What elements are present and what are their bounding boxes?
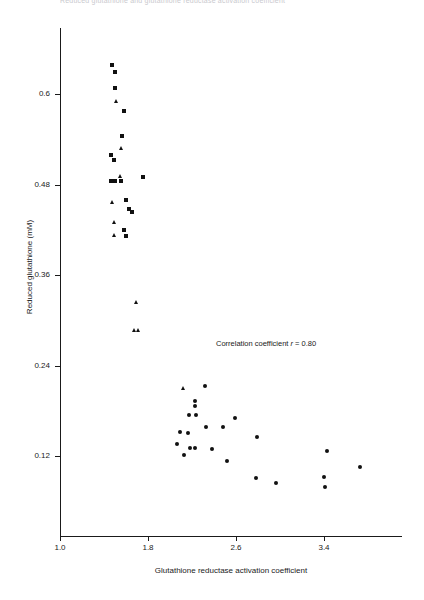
x-tick-mark (324, 536, 325, 541)
data-point-triangle (119, 146, 123, 150)
data-point-square (110, 63, 114, 67)
data-point-circle (186, 431, 190, 435)
data-point-circle (194, 413, 198, 417)
data-point-circle (323, 485, 327, 489)
data-point-circle (358, 465, 362, 469)
x-tick-label: 1.8 (128, 543, 168, 552)
x-tick-mark (148, 536, 149, 541)
data-point-square (122, 228, 126, 232)
y-tick-mark (55, 366, 60, 367)
data-point-triangle (112, 220, 116, 224)
data-point-circle (255, 435, 259, 439)
data-point-triangle (114, 99, 118, 103)
data-point-square (119, 179, 123, 183)
data-point-circle (193, 399, 197, 403)
x-tick-label: 3.4 (304, 543, 344, 552)
data-point-circle (225, 459, 229, 463)
data-point-square (113, 86, 117, 90)
x-axis-line (60, 536, 402, 537)
annotation-suffix: = 0.80 (293, 339, 316, 348)
data-point-square (141, 175, 145, 179)
data-point-circle (193, 404, 197, 408)
correlation-annotation: Correlation coefficient r = 0.80 (216, 339, 316, 349)
data-point-circle (182, 453, 186, 457)
cropped-header-text: Reduced glutathione and glutathione redu… (60, 0, 360, 7)
data-point-circle (193, 446, 197, 450)
data-point-square (124, 234, 128, 238)
data-point-circle (187, 413, 191, 417)
annotation-prefix: Correlation coefficient (216, 339, 290, 348)
data-point-circle (178, 430, 182, 434)
data-point-triangle (136, 328, 140, 332)
data-point-circle (204, 425, 208, 429)
data-point-square (124, 198, 128, 202)
x-tick-label: 2.6 (216, 543, 256, 552)
data-point-circle (203, 384, 207, 388)
data-point-circle (188, 446, 192, 450)
y-tick-mark (55, 185, 60, 186)
data-point-circle (210, 447, 214, 451)
data-point-circle (322, 475, 326, 479)
x-axis-title: Glutathione reductase activation coeffic… (60, 566, 402, 576)
data-point-square (112, 158, 116, 162)
data-point-triangle (134, 300, 138, 304)
data-point-square (113, 70, 117, 74)
y-tick-label: 0.6 (14, 89, 50, 98)
data-point-square (122, 109, 126, 113)
data-point-square (113, 179, 117, 183)
data-point-triangle (118, 174, 122, 178)
scatter-plot-figure: Reduced glutathione and glutathione redu… (0, 0, 424, 600)
data-point-circle (254, 476, 258, 480)
data-point-circle (221, 425, 225, 429)
y-tick-label: 0.12 (14, 451, 50, 460)
x-tick-label: 1.0 (40, 543, 80, 552)
data-point-circle (325, 449, 329, 453)
y-tick-mark (55, 94, 60, 95)
data-point-square (109, 153, 113, 157)
y-axis-line (60, 28, 61, 536)
data-point-circle (274, 481, 278, 485)
data-point-circle (233, 416, 237, 420)
data-point-triangle (110, 200, 114, 204)
data-point-circle (175, 442, 179, 446)
data-point-triangle (181, 386, 185, 390)
data-point-triangle (112, 233, 116, 237)
x-tick-mark (236, 536, 237, 541)
y-tick-mark (55, 456, 60, 457)
data-point-square (130, 210, 134, 214)
y-axis-title: Reduced glutathione (mM) (25, 157, 35, 377)
y-tick-mark (55, 275, 60, 276)
data-point-square (120, 134, 124, 138)
x-tick-mark (60, 536, 61, 541)
